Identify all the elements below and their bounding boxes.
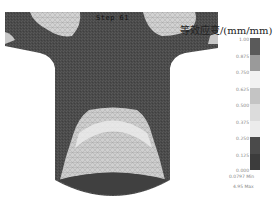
legend-tick: 0.500: [229, 103, 249, 108]
legend-min-label: 0.0797 Min: [229, 174, 254, 179]
legend-tick: 1.00: [229, 37, 249, 42]
legend-color-bar: [250, 38, 260, 170]
legend-tick: 0.375: [229, 120, 249, 125]
fem-strain-plot: Step 61 等效应变/(mm/mm) 1.00 0.875 0.750 0.…: [0, 0, 273, 207]
legend-tick: 0.250: [229, 136, 249, 141]
legend-tick: 0.000: [229, 168, 249, 173]
legend-title: 等效应变/(mm/mm): [180, 22, 272, 37]
legend-band: [250, 104, 260, 121]
legend-band: [250, 137, 260, 154]
legend-tick: 0.750: [229, 70, 249, 75]
step-label: Step 61: [96, 14, 129, 22]
legend-band: [250, 55, 260, 72]
legend-tick: 0.875: [229, 54, 249, 59]
legend-tick: 0.625: [229, 87, 249, 92]
legend-band: [250, 121, 260, 138]
legend-band: [250, 38, 260, 55]
legend-tick: 0.125: [229, 153, 249, 158]
legend-band: [250, 88, 260, 105]
legend-max-label: 4.95 Max: [233, 184, 254, 189]
legend-band: [250, 154, 260, 171]
legend-band: [250, 71, 260, 88]
